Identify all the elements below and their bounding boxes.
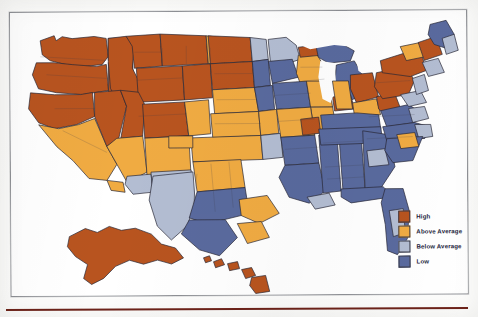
region-nm-sw [125, 174, 153, 194]
region-texas-s [181, 220, 237, 256]
region-oregon [32, 62, 108, 94]
region-colorado [143, 102, 189, 138]
bottom-rule [6, 307, 468, 311]
region-new-england-s [422, 58, 444, 76]
legend-label-below-average: Below Average [416, 241, 461, 251]
region-oklahoma [191, 135, 263, 161]
map-page: High Above Average Below Average Low [0, 0, 478, 317]
legend-swatch-below-average [398, 241, 410, 253]
region-south-dakota [210, 62, 254, 90]
region-maine-coast [442, 34, 458, 54]
region-north-dakota [208, 36, 252, 64]
map-frame: High Above Average Below Average Low [9, 9, 469, 297]
inset-hawaii-2 [214, 259, 225, 268]
region-wyoming [136, 66, 184, 102]
region-nebraska [212, 87, 258, 113]
region-sd-east [252, 59, 270, 87]
region-sc-orange [397, 132, 419, 148]
inset-hawaii-3 [228, 262, 240, 271]
legend-label-low: Low [417, 256, 430, 266]
map-legend: High Above Average Below Average Low [398, 209, 468, 269]
legend-swatch-above-average [398, 226, 410, 238]
region-minnesota-n [268, 37, 300, 63]
inset-hawaii-5 [250, 275, 270, 293]
region-montana-e [160, 34, 208, 66]
region-minnesota-s [268, 59, 298, 83]
region-wyoming-e [182, 64, 212, 100]
map-canvas: High Above Average Below Average Low [10, 10, 468, 296]
legend-label-high: High [416, 211, 430, 221]
region-texas-n [193, 160, 245, 192]
legend-item-high[interactable]: High [398, 209, 468, 223]
inset-hawaii-1 [203, 256, 211, 263]
region-nd-east [250, 37, 268, 61]
map-regions [28, 20, 460, 295]
region-ok-panhandle [169, 136, 193, 148]
region-ok-east [261, 133, 283, 159]
legend-item-above-average[interactable]: Above Average [398, 224, 467, 238]
region-arkansas [281, 135, 319, 165]
legend-label-above-average: Above Average [416, 226, 462, 236]
legend-swatch-low [398, 256, 410, 268]
region-texas-gulf [237, 221, 269, 243]
legend-item-below-average[interactable]: Below Average [398, 239, 467, 253]
region-kansas [211, 111, 261, 137]
region-kansas-e [259, 109, 279, 135]
region-washington [40, 35, 108, 66]
region-texas-se [239, 195, 279, 223]
region-cal-coastspur [107, 180, 125, 192]
region-ohio [350, 73, 378, 103]
legend-swatch-high [398, 211, 410, 223]
legend-item-low[interactable]: Low [398, 254, 467, 268]
region-colorado-e [185, 100, 211, 136]
